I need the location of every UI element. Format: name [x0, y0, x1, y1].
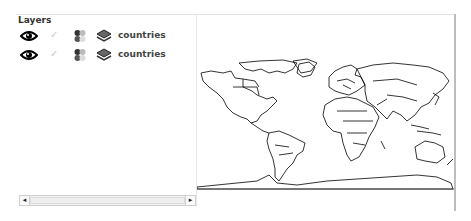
eye-icon[interactable] [20, 47, 38, 61]
layer-stack-icon [96, 47, 112, 61]
scroll-right-button[interactable]: ▸ [185, 196, 195, 205]
africa [323, 97, 379, 161]
australia [415, 141, 445, 163]
scroll-thumb[interactable] [30, 197, 185, 204]
antarctica [197, 175, 453, 189]
layer-name[interactable]: countries [118, 28, 166, 42]
north-america [201, 71, 277, 123]
layer-row[interactable]: ✓ countries [20, 47, 166, 61]
layer-name[interactable]: countries [118, 47, 166, 61]
eye-icon[interactable] [20, 28, 38, 42]
map-right-border [454, 14, 456, 211]
layer-row[interactable]: ✓ countries [20, 28, 166, 42]
horizontal-scrollbar[interactable]: ◂ ▸ [19, 195, 196, 206]
map-canvas[interactable] [197, 15, 454, 207]
scroll-left-button[interactable]: ◂ [20, 196, 30, 205]
layer-stack-icon [96, 28, 112, 42]
style-icon[interactable] [74, 28, 86, 42]
check-icon[interactable]: ✓ [50, 47, 60, 61]
layers-title: Layers [18, 15, 51, 25]
style-icon[interactable] [74, 47, 86, 61]
south-america [267, 131, 305, 181]
layers-panel: Layers ✓ countries ✓ countries [16, 14, 196, 206]
check-icon[interactable]: ✓ [50, 28, 60, 42]
asia [357, 63, 449, 121]
europe [329, 65, 365, 95]
